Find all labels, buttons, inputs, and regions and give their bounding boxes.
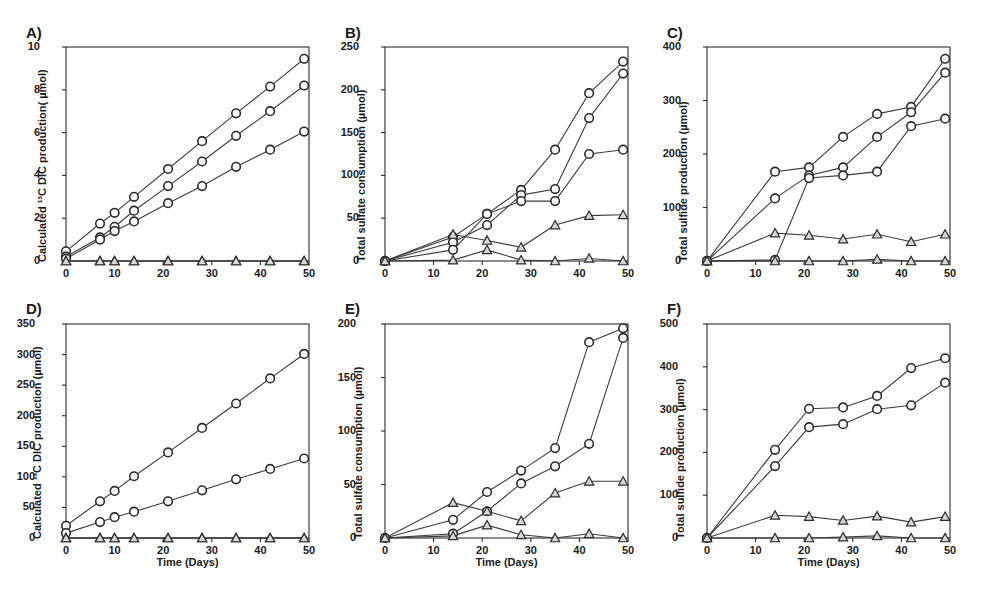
open-circle-marker [805,404,814,413]
open-circle-marker [907,364,916,373]
filled-triangle-marker [770,533,779,541]
series-line [385,74,623,261]
filled-triangle-marker [838,533,847,541]
y-axis-label-e: Total sulfate consumption (µmol) [352,367,364,539]
open-circle-marker [805,174,814,183]
filled-triangle-marker [619,256,628,264]
open-circle-marker [198,157,207,166]
open-circle-marker [96,233,105,242]
x-tick-label: 0 [51,544,81,556]
filled-triangle-marker [197,533,206,541]
open-circle-marker [110,222,119,231]
open-circle-marker [381,257,390,266]
open-circle-marker [110,513,119,522]
filled-triangle-marker [197,533,206,541]
open-circle-marker [110,487,119,496]
open-circle-marker [96,219,105,228]
open-circle-marker [771,167,780,176]
filled-triangle-marker [702,533,711,541]
y-tick-label: 4 [6,168,40,180]
y-tick-label: 100 [325,168,359,180]
x-tick-label: 30 [197,267,227,279]
x-tick-label: 40 [564,267,594,279]
open-circle-marker [449,233,458,242]
x-axis-label-f: Time (Days) [707,556,950,568]
open-circle-marker [839,403,848,412]
open-circle-marker [585,150,594,159]
filled-triangle-marker [770,511,779,519]
filled-triangle-marker [702,256,711,264]
x-tick-label: 50 [613,267,643,279]
panel-letter-f: F) [667,300,681,317]
filled-triangle-marker [838,256,847,264]
series-line [707,358,945,538]
filled-triangle-marker [551,488,560,496]
x-tick-label: 20 [789,267,819,279]
open-circle-marker [232,163,241,172]
filled-triangle-marker [232,533,241,541]
x-tick-label: 40 [245,267,275,279]
filled-triangle-marker [448,498,457,506]
y-tick-label: 200 [325,83,359,95]
open-circle-marker [551,444,560,453]
y-tick-label: 100 [647,201,681,213]
open-circle-marker [517,479,526,488]
x-tick-label: 10 [100,267,130,279]
open-circle-marker [619,324,628,333]
open-circle-marker [941,114,950,123]
filled-triangle-marker [838,516,847,524]
y-tick-label: 100 [1,470,35,482]
open-circle-marker [483,210,492,219]
filled-triangle-marker [702,533,711,541]
open-circle-marker [585,89,594,98]
filled-triangle-marker [907,237,916,245]
x-tick-label: 30 [516,267,546,279]
open-circle-marker [96,518,105,527]
filled-triangle-marker [941,512,950,520]
open-circle-marker [619,145,628,154]
x-tick-label: 0 [692,267,722,279]
open-circle-marker [300,54,309,63]
open-circle-marker [805,423,814,432]
filled-triangle-marker [482,236,491,244]
x-tick-label: 0 [370,544,400,556]
open-circle-marker [517,186,526,195]
open-circle-marker [110,209,119,218]
y-tick-label: 8 [6,83,40,95]
filled-triangle-marker [585,477,594,485]
filled-triangle-marker [95,533,104,541]
open-circle-marker [164,199,173,208]
open-circle-marker [266,107,275,116]
open-circle-marker [517,197,526,206]
open-circle-marker [907,108,916,117]
filled-triangle-marker [448,230,457,238]
open-circle-marker [381,534,390,543]
filled-triangle-marker [516,530,525,538]
x-tick-label: 40 [886,267,916,279]
open-circle-marker [96,235,105,244]
open-circle-marker [198,486,207,495]
x-tick-label: 50 [613,544,643,556]
filled-triangle-marker [907,533,916,541]
filled-triangle-marker [516,256,525,264]
open-circle-marker [517,466,526,475]
filled-triangle-marker [163,533,172,541]
y-tick-label: 200 [647,147,681,159]
filled-triangle-marker [585,529,594,537]
series-line [385,481,623,538]
filled-triangle-marker [232,533,241,541]
x-tick-label: 50 [935,544,965,556]
open-circle-marker [381,257,390,266]
open-circle-marker [805,163,814,172]
open-circle-marker [551,197,560,206]
filled-triangle-marker [266,533,275,541]
filled-triangle-marker [448,531,457,539]
open-circle-marker [703,534,712,543]
filled-triangle-marker [61,533,70,541]
open-circle-marker [449,529,458,538]
open-circle-marker [381,257,390,266]
series-line [66,354,304,526]
filled-triangle-marker [266,533,275,541]
open-circle-marker [164,497,173,506]
open-circle-marker [449,246,458,255]
